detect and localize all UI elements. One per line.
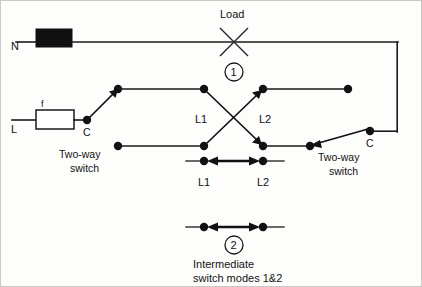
mode-1-straight-row xyxy=(186,157,284,166)
left-switch-arm xyxy=(89,89,118,118)
label-l2-bottom: L2 xyxy=(257,176,269,188)
label-two-way-left-line2: switch xyxy=(70,162,99,174)
label-common-right: C xyxy=(366,137,374,149)
mode-1-right-node xyxy=(259,157,267,165)
label-l1-bottom: L1 xyxy=(198,176,210,188)
mode-1-left-node xyxy=(200,157,208,165)
label-live: L xyxy=(11,123,17,135)
intermediate-cross-arm-a xyxy=(207,90,262,143)
caption-line1: Intermediate xyxy=(193,258,254,270)
mode-2-left-node xyxy=(200,223,208,231)
label-two-way-right-line1: Two-way xyxy=(318,151,360,163)
label-common-left: C xyxy=(83,126,91,138)
label-two-way-right-line2: switch xyxy=(329,165,358,177)
circuit-diagram: N L f Load 1 C C L1 L2 L1 L2 Two-way swi… xyxy=(0,0,422,287)
circuit-svg: N L f Load 1 C C L1 L2 L1 L2 Two-way swi… xyxy=(0,0,422,287)
label-two-way-left-line1: Two-way xyxy=(59,148,101,160)
label-neutral: N xyxy=(11,40,19,52)
label-fuse: f xyxy=(41,99,44,109)
label-load: Load xyxy=(220,8,244,20)
label-l2-top: L2 xyxy=(259,113,271,125)
label-mode-2: 2 xyxy=(231,239,237,251)
caption-line2: switch modes 1&2 xyxy=(193,272,282,284)
right-switch-l1-node xyxy=(344,85,352,93)
mode-2-right-node xyxy=(259,223,267,231)
fuse-symbol xyxy=(36,110,74,129)
right-switch-arm xyxy=(310,129,368,148)
mode-2-straight-row xyxy=(186,223,284,232)
intermediate-cross-arm-b xyxy=(207,92,262,145)
load-block xyxy=(36,29,72,47)
right-switch-common-node xyxy=(366,127,374,135)
label-mode-1-top: 1 xyxy=(231,66,237,78)
label-l1-top: L1 xyxy=(195,113,207,125)
